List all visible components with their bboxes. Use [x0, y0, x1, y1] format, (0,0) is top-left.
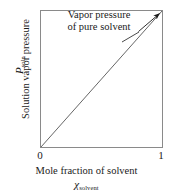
y-axis-symbol: Psoln [10, 52, 28, 78]
y-axis-symbol-subscript: soln [19, 56, 26, 67]
raoults-law-figure: Vapor pressure of pure solvent Solution … [0, 0, 173, 196]
x-axis-symbol-subscript: solvent [79, 184, 98, 191]
y-axis-symbol-main: P [13, 67, 25, 74]
x-axis-symbol: χsolvent [0, 178, 173, 194]
x-tick-label-1: 1 [154, 149, 168, 162]
annotation-line-2: of pure solvent [57, 21, 141, 33]
x-axis-title: Mole fraction of solvent [0, 164, 173, 177]
annotation-label: Vapor pressure of pure solvent [57, 9, 141, 34]
x-tick-label-0: 0 [33, 149, 47, 162]
annotation-line-1: Vapor pressure [57, 9, 141, 21]
